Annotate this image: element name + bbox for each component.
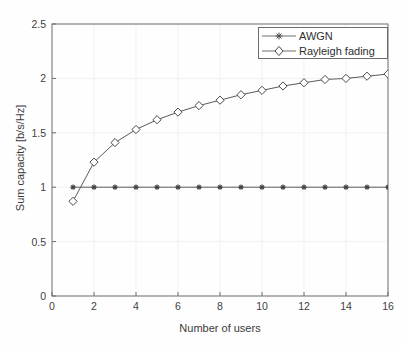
diamond-marker — [237, 91, 245, 99]
legend-entry-rayleigh: Rayleigh fading — [259, 43, 389, 59]
data-series-layer — [69, 70, 392, 205]
diamond-marker — [300, 79, 308, 87]
diamond-marker — [321, 75, 329, 83]
series-line — [73, 74, 388, 201]
asterisk-marker — [112, 185, 117, 190]
chart-figure: 2.5 2 1.5 1 0.5 0 0 2 4 6 8 10 12 14 16 … — [0, 0, 403, 346]
diamond-marker — [363, 72, 371, 80]
chart-legend: AWGN Rayleigh fading — [258, 27, 388, 59]
asterisk-marker — [238, 185, 243, 190]
asterisk-marker — [154, 185, 159, 190]
asterisk-marker — [322, 185, 327, 190]
diamond-marker — [258, 86, 266, 94]
legend-label: AWGN — [299, 28, 333, 44]
asterisk-marker — [259, 28, 299, 44]
asterisk-marker — [343, 185, 348, 190]
series-rayleigh-fading — [69, 70, 392, 205]
asterisk-marker — [280, 185, 285, 190]
diamond-marker — [195, 102, 203, 110]
asterisk-marker — [70, 185, 75, 190]
diamond-marker — [153, 116, 161, 124]
series-awgn — [70, 185, 390, 190]
asterisk-marker — [91, 185, 96, 190]
grid-lines — [52, 24, 388, 296]
legend-label: Rayleigh fading — [299, 43, 375, 59]
diamond-marker — [174, 108, 182, 116]
legend-entry-awgn: AWGN — [259, 28, 389, 44]
asterisk-marker — [301, 185, 306, 190]
asterisk-marker — [196, 185, 201, 190]
asterisk-marker — [364, 185, 369, 190]
diamond-marker — [384, 70, 392, 78]
diamond-marker — [69, 197, 77, 205]
asterisk-marker — [385, 185, 390, 190]
asterisk-marker — [133, 185, 138, 190]
asterisk-marker — [175, 185, 180, 190]
diamond-marker — [259, 43, 299, 59]
diamond-marker — [342, 74, 350, 82]
asterisk-marker — [259, 185, 264, 190]
asterisk-marker — [217, 185, 222, 190]
diamond-marker — [216, 96, 224, 104]
diamond-marker — [279, 82, 287, 90]
